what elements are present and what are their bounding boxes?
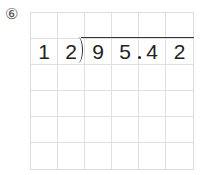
grid-cell[interactable] [58,13,85,39]
grid-cell[interactable] [31,143,58,169]
grid-cell[interactable] [139,65,166,91]
grid-cell[interactable] [31,117,58,143]
grid-cell[interactable] [58,65,85,91]
divisor-digit: 1 [31,39,58,65]
grid-cell[interactable] [139,117,166,143]
grid-cell[interactable] [139,143,166,169]
grid-cell[interactable] [166,13,193,39]
grid-cell[interactable] [166,65,193,91]
grid-cell[interactable] [85,117,112,143]
grid-cell[interactable] [58,91,85,117]
grid-cell[interactable] [139,13,166,39]
grid-cell[interactable] [112,65,139,91]
problem-number: ⑥ [5,5,18,23]
grid-cell[interactable] [85,91,112,117]
grid-cell[interactable] [166,143,193,169]
grid-cell[interactable] [58,117,85,143]
division-overline [81,37,194,38]
grid-cell[interactable] [166,91,193,117]
answer-grid: 1 2 9 5 4 2 [30,12,194,170]
grid-cell[interactable] [139,91,166,117]
grid-cell[interactable] [112,91,139,117]
dividend-digit: 2 [166,39,193,65]
dividend-digit: 9 [85,39,112,65]
grid-cell[interactable] [85,13,112,39]
grid-cell[interactable] [112,13,139,39]
grid-cell[interactable] [85,65,112,91]
grid-cell[interactable] [85,143,112,169]
dividend-digit: 5 [112,39,139,65]
dividend-digit: 4 [139,39,166,65]
decimal-point [138,56,141,59]
grid-cell[interactable] [58,143,85,169]
grid-cell[interactable] [31,65,58,91]
grid-cell[interactable] [112,143,139,169]
grid-cell[interactable] [31,91,58,117]
division-bracket [73,37,83,63]
grid-cell[interactable] [112,117,139,143]
grid-cell[interactable] [31,13,58,39]
grid-cell[interactable] [166,117,193,143]
